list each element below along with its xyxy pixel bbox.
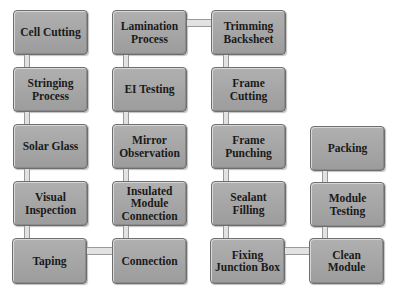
step-connection: Connection	[112, 238, 187, 284]
connector	[223, 169, 229, 181]
connector	[87, 247, 112, 255]
step-clean-module: Clean Module	[309, 238, 384, 284]
step-sealant-filling: Sealant Filling	[211, 181, 286, 226]
step-frame-cutting: Frame Cutting	[211, 67, 286, 112]
step-module-testing: Module Testing	[310, 182, 385, 227]
step-trimming-backsheet: Trimming Backsheet	[211, 10, 286, 55]
step-visual-inspection: Visual Inspection	[13, 181, 88, 226]
step-solar-glass: Solar Glass	[13, 124, 88, 169]
connector	[223, 55, 229, 67]
step-insulated-module-connection: Insulated Module Connection	[112, 181, 187, 226]
step-stringing-process: Stringing Process	[13, 67, 88, 112]
connector	[24, 112, 30, 124]
connector	[123, 55, 129, 67]
step-fixing-junction-box: Fixing Junction Box	[210, 238, 285, 284]
step-lamination-process: Lamination Process	[112, 10, 187, 55]
connector	[187, 19, 211, 27]
step-mirror-observation: Mirror Observation	[112, 124, 187, 169]
step-packing: Packing	[310, 126, 385, 171]
step-ei-testing: EI Testing	[112, 67, 187, 112]
connector	[285, 247, 310, 255]
connector	[223, 112, 229, 124]
step-cell-cutting: Cell Cutting	[13, 10, 88, 55]
connector	[123, 112, 129, 124]
step-frame-punching: Frame Punching	[211, 124, 286, 169]
connector	[223, 226, 229, 238]
step-taping: Taping	[12, 238, 87, 284]
connector	[322, 171, 328, 182]
connector	[24, 55, 30, 67]
connector	[24, 226, 30, 238]
connector	[123, 169, 129, 181]
connector	[322, 227, 328, 238]
connector	[24, 169, 30, 181]
connector	[123, 226, 129, 238]
